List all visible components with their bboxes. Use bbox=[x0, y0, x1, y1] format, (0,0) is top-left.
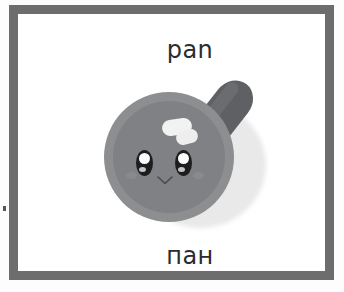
pan-cooking-surface bbox=[113, 101, 225, 213]
word-label-russian: пан bbox=[18, 242, 344, 270]
pan-illustration bbox=[96, 72, 286, 234]
card-frame-border: pan bbox=[9, 5, 334, 280]
vocabulary-flashcard: pan bbox=[0, 0, 344, 292]
pan-eye-right-icon bbox=[175, 150, 192, 176]
word-label-english: pan bbox=[18, 36, 344, 64]
pan-eye-left-icon bbox=[136, 150, 153, 176]
pan-cheek-left bbox=[126, 172, 137, 179]
pan-eye-left-shine bbox=[139, 153, 150, 164]
frame-edge-artifact bbox=[3, 206, 6, 211]
pan-eye-right-glint bbox=[178, 167, 185, 172]
pan-cheek-right bbox=[193, 172, 204, 179]
pan-eye-left-glint bbox=[139, 167, 146, 172]
pan-smile-icon bbox=[157, 176, 173, 185]
pan-eye-right-shine bbox=[178, 153, 189, 164]
